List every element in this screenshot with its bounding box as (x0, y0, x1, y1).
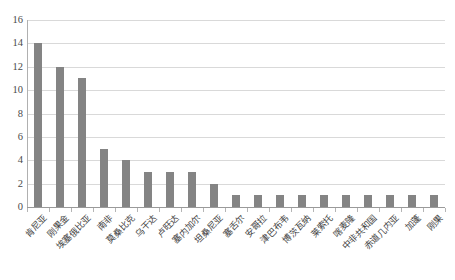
bar[interactable] (320, 195, 328, 207)
y-axis-tick-labels: 0246810121416 (0, 20, 23, 208)
x-axis-tick-marks (27, 208, 445, 212)
x-axis-tick-mark (313, 208, 314, 212)
y-axis-tick-label: 10 (1, 85, 23, 95)
x-axis-tick-mark (159, 208, 160, 212)
x-axis-tick-mark (181, 208, 182, 212)
bar[interactable] (364, 195, 372, 207)
x-axis-tick-mark (445, 208, 446, 212)
bar[interactable] (122, 160, 130, 207)
bar[interactable] (408, 195, 416, 207)
y-axis-tick-label: 0 (1, 202, 23, 212)
bar[interactable] (276, 195, 284, 207)
y-axis-tick-label: 2 (1, 179, 23, 189)
bar[interactable] (210, 184, 218, 207)
x-axis-tick-mark (247, 208, 248, 212)
y-axis-tick-label: 12 (1, 62, 23, 72)
x-axis-category-label: 莱索托 (309, 213, 335, 239)
bar[interactable] (188, 172, 196, 207)
y-axis-tick-label: 14 (1, 38, 23, 48)
bar[interactable] (386, 195, 394, 207)
x-axis-tick-mark (49, 208, 50, 212)
bar[interactable] (78, 78, 86, 207)
x-axis-category-label: 肯尼亚 (23, 213, 49, 239)
bar[interactable] (144, 172, 152, 207)
bar-chart: 0246810121416 肯尼亚刚果金埃塞俄比亚南非莫桑比克乌干达卢旺达塞内加… (0, 0, 455, 280)
x-axis-tick-mark (203, 208, 204, 212)
x-axis-category-label: 刚果 (425, 213, 445, 233)
bar[interactable] (232, 195, 240, 207)
bar[interactable] (342, 195, 350, 207)
x-axis-tick-mark (379, 208, 380, 212)
y-axis-tick-label: 6 (1, 132, 23, 142)
x-axis-tick-mark (225, 208, 226, 212)
bar[interactable] (430, 195, 438, 207)
x-axis-category-labels: 肯尼亚刚果金埃塞俄比亚南非莫桑比克乌干达卢旺达塞内加尔坦桑尼亚塞舌尔安哥拉津巴布… (27, 213, 455, 280)
x-axis-tick-mark (27, 208, 28, 212)
x-axis-tick-mark (71, 208, 72, 212)
x-axis-category-label: 塞舌尔 (221, 213, 247, 239)
x-axis-tick-mark (357, 208, 358, 212)
x-axis-tick-mark (335, 208, 336, 212)
bar[interactable] (34, 43, 42, 207)
bar[interactable] (100, 149, 108, 207)
bar[interactable] (298, 195, 306, 207)
x-axis-tick-mark (401, 208, 402, 212)
bar[interactable] (254, 195, 262, 207)
y-axis-tick-label: 16 (1, 15, 23, 25)
x-axis-tick-mark (269, 208, 270, 212)
bar[interactable] (56, 67, 64, 207)
x-axis-tick-mark (93, 208, 94, 212)
x-axis-tick-mark (291, 208, 292, 212)
bars-container (27, 20, 445, 207)
x-axis-tick-mark (115, 208, 116, 212)
y-axis-tick-label: 4 (1, 155, 23, 165)
x-axis-category-label: 加蓬 (403, 213, 423, 233)
x-axis-tick-mark (423, 208, 424, 212)
x-axis-tick-mark (137, 208, 138, 212)
x-axis-category-label: 乌干达 (133, 213, 159, 239)
bar[interactable] (166, 172, 174, 207)
y-axis-tick-label: 8 (1, 109, 23, 119)
